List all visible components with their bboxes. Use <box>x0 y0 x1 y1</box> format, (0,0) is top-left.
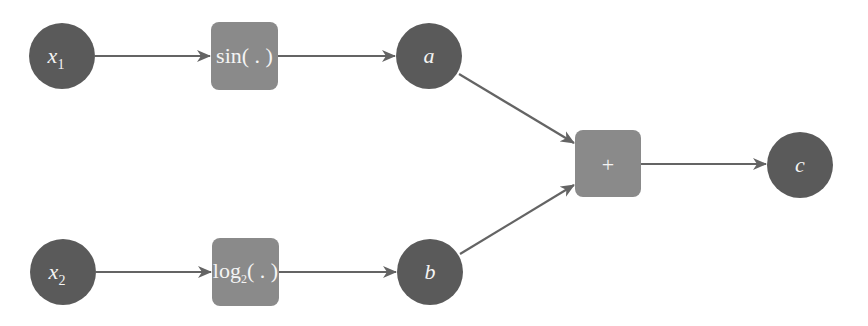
node-sin-label: sin( . ) <box>216 43 273 68</box>
computational-graph: x1 sin( . ) a + c x2 log2( . ) b <box>0 0 868 326</box>
edge-b-to-plus <box>460 185 574 254</box>
node-x1: x1 <box>29 23 95 89</box>
node-b: b <box>397 239 463 305</box>
node-plus: + <box>575 130 641 197</box>
node-plus-label: + <box>602 152 614 177</box>
node-b-label: b <box>425 259 436 284</box>
edge-a-to-plus <box>459 74 574 143</box>
node-x2: x2 <box>30 239 96 305</box>
node-c: c <box>767 132 833 198</box>
node-c-label: c <box>795 152 805 177</box>
node-log2: log2( . ) <box>212 238 279 306</box>
node-a-label: a <box>424 43 435 68</box>
node-sin: sin( . ) <box>211 22 278 90</box>
node-a: a <box>396 23 462 89</box>
